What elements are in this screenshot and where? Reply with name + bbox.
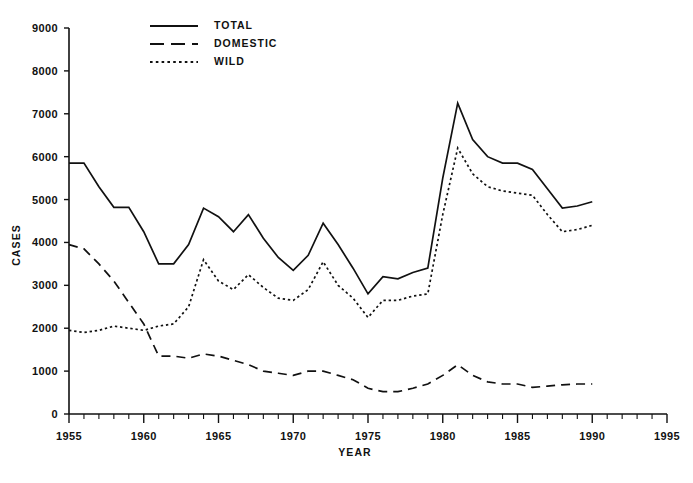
series-line-domestic	[69, 245, 592, 392]
y-tick-group: 0100020003000400050006000700080009000	[32, 22, 69, 420]
y-tick-label: 7000	[32, 108, 58, 120]
line-chart: 0100020003000400050006000700080009000 19…	[0, 0, 693, 483]
x-tick-label: 1995	[654, 430, 680, 442]
x-tick-label: 1975	[355, 430, 381, 442]
series-line-total	[69, 103, 592, 294]
x-tick-label: 1955	[56, 430, 82, 442]
y-tick-label: 3000	[32, 279, 58, 291]
x-tick-label: 1960	[131, 430, 157, 442]
y-tick-label: 0	[51, 408, 58, 420]
y-tick-label: 8000	[32, 65, 58, 77]
legend-label-domestic: DOMESTIC	[214, 37, 277, 49]
x-tick-label: 1965	[205, 430, 231, 442]
legend-label-wild: WILD	[214, 55, 245, 67]
y-tick-label: 1000	[32, 365, 58, 377]
y-tick-label: 5000	[32, 194, 58, 206]
y-tick-label: 9000	[32, 22, 58, 34]
x-axis-group: 195519601965197019751980198519901995	[56, 414, 680, 442]
y-tick-label: 6000	[32, 151, 58, 163]
x-axis-title: YEAR	[338, 446, 372, 458]
x-tick-label: 1990	[579, 430, 605, 442]
x-tick-label: 1985	[504, 430, 530, 442]
chart-legend: TOTALDOMESTICWILD	[150, 19, 277, 67]
y-tick-label: 2000	[32, 322, 58, 334]
y-axis-title: CASES	[10, 224, 22, 266]
legend-label-total: TOTAL	[214, 19, 253, 31]
x-tick-label: 1970	[280, 430, 306, 442]
data-series-group	[69, 103, 592, 392]
x-tick-group: 195519601965197019751980198519901995	[56, 414, 680, 442]
chart-container: 0100020003000400050006000700080009000 19…	[0, 0, 693, 483]
x-tick-label: 1980	[430, 430, 456, 442]
y-axis-group: 0100020003000400050006000700080009000	[32, 22, 69, 420]
y-tick-label: 4000	[32, 236, 58, 248]
